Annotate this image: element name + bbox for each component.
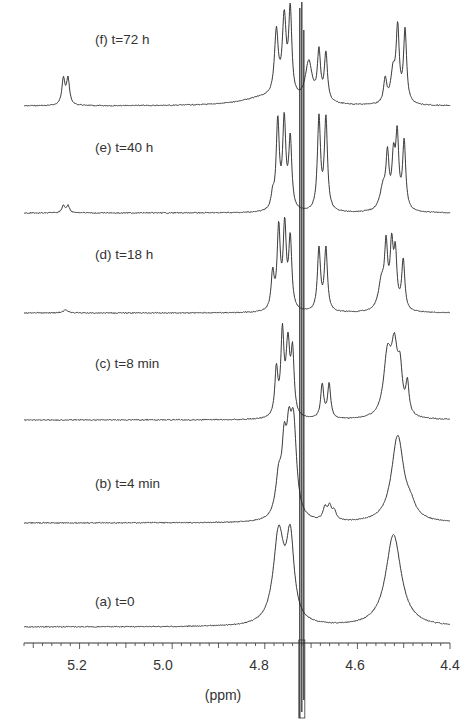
spectra-traces — [24, 3, 450, 627]
trace-label-f: (f) t=72 h — [95, 32, 149, 47]
trace-label-b: (b) t=4 min — [95, 476, 160, 491]
spectrum-trace-e — [24, 112, 450, 213]
x-tick-label-4.6: 4.6 — [345, 657, 364, 673]
spectrum-trace-a — [24, 524, 450, 627]
trace-label-c: (c) t=8 min — [95, 356, 159, 371]
trace-label-d: (d) t=18 h — [95, 247, 153, 262]
spectrum-trace-c — [24, 323, 450, 420]
x-tick-label-4.4: 4.4 — [440, 657, 459, 673]
spectrum-trace-d — [24, 217, 450, 313]
spectrum-trace-f — [24, 3, 450, 106]
x-axis — [24, 643, 450, 649]
solvent-peak-hdo — [299, 2, 305, 718]
x-axis-title: (ppm) — [205, 687, 242, 703]
x-tick-label-4.8: 4.8 — [249, 657, 268, 673]
trace-label-e: (e) t=40 h — [95, 140, 153, 155]
trace-label-a: (a) t=0 — [95, 594, 134, 609]
nmr-spectra-plot — [0, 0, 476, 724]
spectrum-trace-b — [24, 407, 450, 524]
x-tick-label-5.0: 5.0 — [153, 657, 172, 673]
x-tick-label-5.2: 5.2 — [67, 657, 86, 673]
